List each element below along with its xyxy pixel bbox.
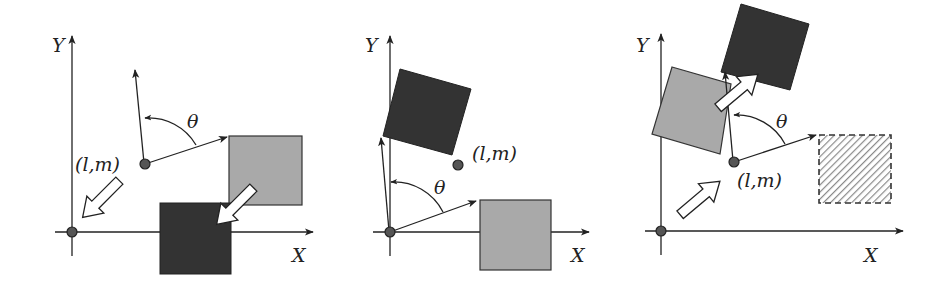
local-x-vector	[390, 201, 476, 232]
light-square	[480, 200, 551, 270]
reference-point-label: (l,m)	[472, 142, 517, 164]
local-x-vector	[734, 135, 816, 162]
y-axis-label: Y	[52, 34, 67, 56]
reference-point-label: (l,m)	[75, 153, 120, 175]
reference-point-label: (l,m)	[737, 169, 782, 191]
rotated-dark-square	[383, 69, 471, 155]
rotated-dark-square	[721, 4, 809, 90]
reference-point	[453, 160, 463, 170]
local-x-vector	[145, 137, 227, 164]
origin-point	[656, 226, 666, 236]
rotated-light-square	[652, 67, 731, 154]
panel-2: Y X θ (l,m)	[365, 34, 589, 270]
theta-label: θ	[434, 176, 446, 198]
x-axis-label: X	[569, 244, 586, 266]
theta-label: θ	[187, 110, 199, 132]
origin-point	[67, 227, 77, 237]
panel-1: Y X θ (l,m)	[52, 34, 313, 274]
panel-3: Y X θ (l,m)	[636, 4, 903, 266]
translation-arrow-from-origin	[672, 172, 727, 224]
diagram-canvas: Y X θ (l,m) Y X θ (l,m)	[0, 0, 943, 288]
reference-point	[140, 159, 150, 169]
y-axis-label: Y	[636, 34, 651, 56]
hatched-dashed-square	[819, 135, 891, 203]
y-axis-label: Y	[365, 34, 380, 56]
theta-label: θ	[776, 110, 788, 132]
origin-point	[385, 227, 395, 237]
local-y-vector	[381, 138, 389, 231]
reference-point	[729, 157, 739, 167]
x-axis-label: X	[862, 244, 879, 266]
translation-arrow-to-origin	[74, 172, 128, 226]
x-axis-label: X	[290, 244, 307, 266]
local-y-vector	[135, 70, 144, 163]
